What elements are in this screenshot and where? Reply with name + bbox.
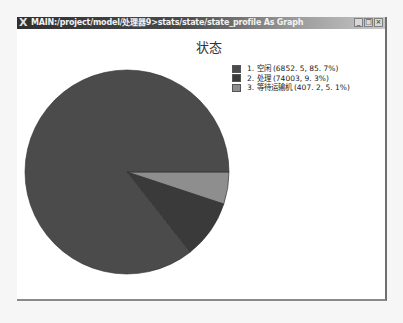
legend-swatch-1 [232, 65, 241, 73]
legend-label: 1. 空闲 (6852. 5, 85. 7%) [247, 64, 338, 73]
legend-swatch-2 [232, 74, 241, 82]
legend-item: 3. 等待运输机 (407. 2, 5. 1%) [232, 83, 350, 93]
legend-item: 1. 空闲 (6852. 5, 85. 7%) [232, 64, 350, 74]
graph-window: X MAIN:/project/model/处理器9>stats/state/s… [17, 17, 387, 301]
legend-label: 2. 处理 (74003, 9. 3%) [247, 74, 329, 83]
legend-item: 2. 处理 (74003, 9. 3%) [232, 74, 350, 84]
legend-swatch-3 [232, 84, 241, 92]
pie-chart [17, 17, 385, 299]
chart-legend: 1. 空闲 (6852. 5, 85. 7%) 2. 处理 (74003, 9.… [232, 64, 350, 93]
legend-label: 3. 等待运输机 (407. 2, 5. 1%) [247, 83, 350, 92]
